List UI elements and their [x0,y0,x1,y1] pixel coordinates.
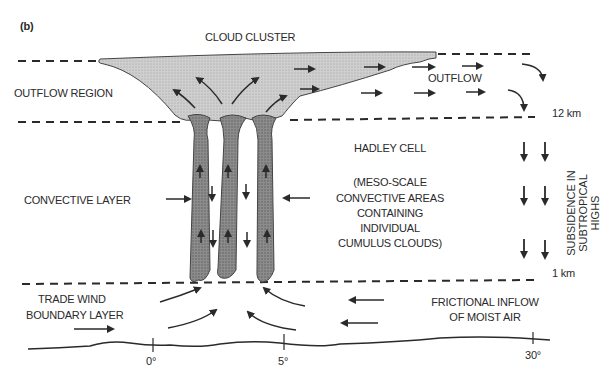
hadley-cell-label: HADLEY CELL [340,142,440,154]
tick-label-0: 0° [146,355,156,367]
subsidence-label: SUBSIDENCE IN SUBTROPICAL HIGHS [565,158,605,268]
meso-scale-label-3: CONTAINING [320,207,460,219]
latitude-ticks [153,332,533,352]
earth-surface-line [28,337,550,349]
convective-columns [188,114,276,282]
convective-layer-label: CONVECTIVE LAYER [24,194,131,206]
subsidence-line-3: HIGHS [589,158,601,268]
meso-scale-label-5: CUMULUS CLOUDS) [310,237,470,249]
label-pointer-arrows [166,198,310,199]
level-1km-label: 1 km [552,267,575,279]
tick-label-30: 30° [525,349,541,361]
meso-scale-label-4: INDIVIDUAL [320,222,460,234]
tick-label-5: 5° [278,355,288,367]
diagram-title: CLOUD CLUSTER [205,31,295,43]
meso-scale-label-1: (MESO-SCALE [320,176,460,188]
subsidence-arrows [524,142,545,258]
subsidence-line-2: SUBTROPICAL [577,158,589,268]
meso-scale-label-2: CONVECTIVE AREAS [310,192,470,204]
frictional-inflow-label-1: FRICTIONAL INFLOW [410,296,560,308]
subsidence-line-1: SUBSIDENCE IN [565,158,577,268]
outflow-region-label: OUTFLOW REGION [14,87,113,99]
trade-wind-label-2: BOUNDARY LAYER [26,309,123,321]
level-12km-label: 12 km [552,107,581,119]
frictional-inflow-label-2: OF MOIST AIR [410,311,560,323]
trade-wind-label-1: TRADE WIND [38,293,106,305]
level-1km-dashed-line [22,280,535,284]
panel-label: (b) [20,20,33,32]
outflow-label: OUTFLOW [428,72,482,84]
